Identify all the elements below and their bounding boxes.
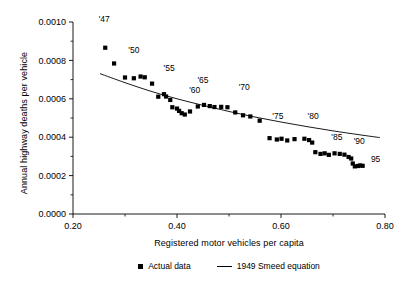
data-point-marker	[156, 95, 160, 99]
data-point-marker	[188, 109, 192, 113]
y-axis-tick-label: 0.0008	[38, 56, 66, 66]
data-point-marker	[168, 98, 172, 102]
data-point-marker	[258, 119, 262, 123]
data-point-marker	[318, 152, 322, 156]
line-marker-icon	[217, 266, 232, 267]
x-axis-tick-label: 0.60	[272, 221, 290, 231]
data-point-marker	[202, 103, 206, 107]
data-point-marker	[212, 105, 216, 109]
data-point-marker	[248, 114, 252, 118]
data-point-year-label: '47	[99, 14, 110, 24]
data-point-marker	[196, 104, 200, 108]
data-point-marker	[233, 110, 237, 114]
y-axis-tick-label: 0.0010	[38, 17, 66, 27]
data-point-marker	[349, 156, 353, 160]
data-point-marker	[132, 76, 136, 80]
data-point-marker	[123, 75, 127, 79]
square-marker-icon	[138, 264, 143, 269]
data-point-marker	[164, 94, 168, 98]
data-point-marker	[361, 164, 365, 168]
data-point-marker	[292, 137, 296, 141]
data-point-marker	[323, 151, 327, 155]
legend-item-actual-data: Actual data	[138, 261, 191, 271]
data-point-marker	[225, 105, 229, 109]
data-point-marker	[338, 152, 342, 156]
data-point-year-label: '55	[164, 63, 175, 73]
chart-legend: Actual data 1949 Smeed equation	[73, 261, 385, 271]
legend-label-actual-data: Actual data	[148, 261, 191, 271]
data-point-year-label: '85	[331, 132, 342, 142]
data-point-marker	[342, 153, 346, 157]
data-point-marker	[302, 137, 306, 141]
y-axis-tick-label: 0.0000	[38, 209, 66, 219]
data-point-marker	[103, 46, 107, 50]
data-point-year-label: '50	[128, 45, 139, 55]
data-point-marker	[143, 75, 147, 79]
data-point-year-label: '65	[198, 75, 209, 85]
data-point-marker	[267, 136, 271, 140]
data-point-marker	[275, 137, 279, 141]
data-point-year-label: '60	[189, 85, 200, 95]
data-point-marker	[139, 74, 143, 78]
data-point-marker	[279, 137, 283, 141]
data-point-year-label: '75	[272, 111, 283, 121]
y-axis-tick-label: 0.0006	[38, 94, 66, 104]
data-point-year-label: 95	[371, 154, 381, 164]
x-axis-tick-label: 0.40	[168, 221, 186, 231]
data-point-marker	[170, 105, 174, 109]
chart-figure: 0.00000.00020.00040.00060.00080.00100.20…	[0, 0, 412, 285]
data-point-marker	[310, 140, 314, 144]
legend-label-smeed-equation: 1949 Smeed equation	[237, 261, 320, 271]
legend-item-smeed-equation: 1949 Smeed equation	[217, 261, 320, 271]
data-point-marker	[332, 151, 336, 155]
data-point-year-label: '70	[239, 82, 250, 92]
data-point-marker	[285, 138, 289, 142]
data-point-year-label: '80	[308, 111, 319, 121]
data-point-marker	[112, 61, 116, 65]
data-point-marker	[208, 104, 212, 108]
y-axis-title: Annual highway deaths per vehicle	[19, 13, 29, 233]
y-axis-tick-label: 0.0002	[38, 171, 66, 181]
data-point-year-label: '90	[354, 136, 365, 146]
data-point-marker	[150, 82, 154, 86]
data-point-marker	[313, 150, 317, 154]
data-point-marker	[183, 112, 187, 116]
x-axis-title: Registered motor vehicles per capita	[73, 238, 385, 248]
data-point-marker	[327, 153, 331, 157]
x-axis-tick-label: 0.20	[64, 221, 82, 231]
data-point-marker	[241, 113, 245, 117]
y-axis-tick-label: 0.0004	[38, 132, 66, 142]
x-axis-tick-label: 0.80	[376, 221, 394, 231]
data-point-marker	[219, 105, 223, 109]
